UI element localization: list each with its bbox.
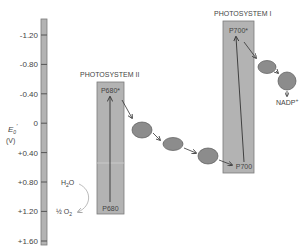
nadp-label: NADP+ bbox=[276, 97, 298, 106]
p680-label: P680 bbox=[102, 205, 118, 212]
carrier-oval bbox=[163, 138, 183, 151]
ps2-title: PHOTOSYSTEM II bbox=[80, 71, 139, 78]
z-scheme-diagram: -1.20 -0.80 -0.40 0 +0.40 +0.80 +1.20 +1… bbox=[0, 0, 307, 250]
svg-text:(V): (V) bbox=[6, 137, 15, 145]
svg-text:E0′: E0′ bbox=[8, 123, 18, 135]
tick-label: +1.20 bbox=[18, 207, 39, 216]
photosystem-ii: PHOTOSYSTEM II P680* P680 bbox=[80, 71, 139, 214]
potential-scale-bar: -1.20 -0.80 -0.40 0 +0.40 +0.80 +1.20 +1… bbox=[18, 19, 47, 246]
tick-label: +1.60 bbox=[18, 237, 39, 246]
tick-label: -0.80 bbox=[20, 60, 39, 69]
carrier-circle bbox=[278, 72, 296, 90]
electron-flow-arrows bbox=[122, 42, 287, 165]
tick-label: -0.40 bbox=[20, 90, 39, 99]
p680-star-label: P680* bbox=[101, 87, 120, 94]
electron-carriers bbox=[132, 61, 296, 165]
carrier-oval bbox=[198, 148, 218, 164]
tick-label: 0 bbox=[34, 119, 39, 128]
photosystem-i: PHOTOSYSTEM I P700* P700 bbox=[214, 10, 271, 173]
axis-label: E0′ (V) bbox=[6, 123, 18, 145]
h2o-label: H2O bbox=[61, 179, 75, 188]
tick-label: +0.40 bbox=[18, 149, 39, 158]
carrier-oval bbox=[132, 122, 152, 138]
p700-label: P700 bbox=[236, 163, 252, 170]
ps1-title: PHOTOSYSTEM I bbox=[214, 10, 271, 17]
tick-label: -1.20 bbox=[20, 31, 39, 40]
tick-label: +0.80 bbox=[18, 178, 39, 187]
p700-star-label: P700* bbox=[229, 27, 248, 34]
o2-label: ½ O2 bbox=[56, 208, 72, 217]
water-splitting: H2O ½ O2 bbox=[56, 179, 89, 217]
carrier-oval bbox=[258, 61, 276, 74]
